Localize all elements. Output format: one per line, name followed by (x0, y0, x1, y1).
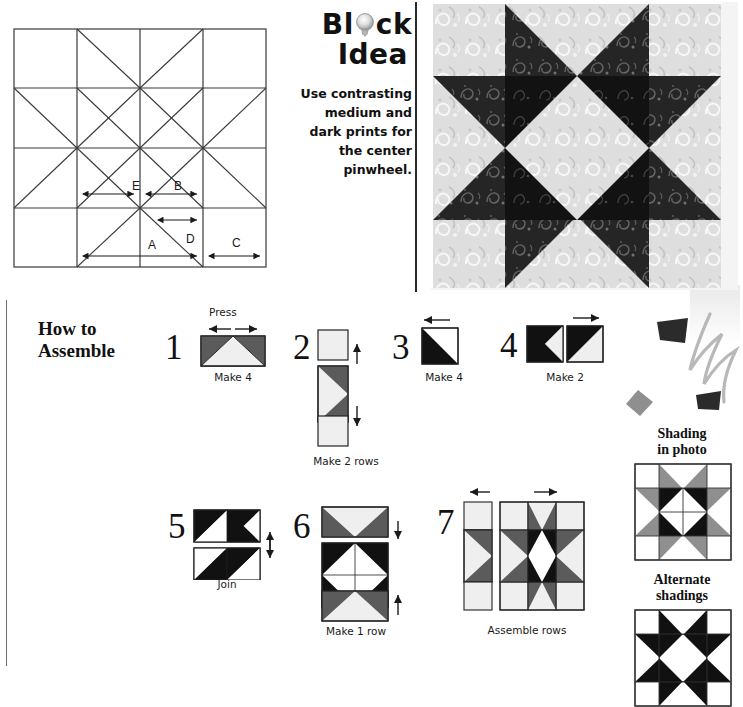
assemble-heading-line2: Assemble (38, 340, 115, 362)
step-1-press-label: Press (209, 306, 237, 318)
block-idea-title-suffix: ck (376, 10, 412, 40)
block-idea-panel: Bl ck (300, 10, 412, 179)
step-number-7: 7 (437, 505, 455, 540)
piece-label-C: C (232, 236, 241, 250)
shading-in-photo-diagram (634, 463, 732, 561)
pencil-scribble-mark (676, 306, 743, 416)
piece-label-E: E (132, 179, 140, 193)
step-number-4: 4 (500, 328, 518, 363)
step-number-5: 5 (168, 509, 186, 544)
step-1-caption: Make 4 (193, 371, 273, 383)
piece-label-A: A (148, 238, 156, 252)
block-idea-title-line2: Idea (300, 40, 412, 70)
step-3-unit (414, 312, 474, 368)
alternate-shadings-title-line2: shadings (620, 588, 743, 604)
step-7-unit (462, 484, 592, 618)
step-6-unit (320, 505, 412, 623)
step-number-3: 3 (392, 330, 410, 365)
left-margin-rule (6, 300, 7, 666)
lightbulb-icon (354, 11, 376, 39)
step-7-caption: Assemble rows (462, 624, 592, 636)
block-idea-body-text: Use contrasting medium and dark prints f… (300, 84, 412, 179)
step-1-unit (193, 320, 273, 368)
shading-in-photo-title-line1: Shading (620, 426, 743, 442)
block-photograph (431, 2, 738, 290)
piece-label-B: B (174, 179, 182, 193)
step-4-unit (523, 310, 613, 368)
step-5-unit (192, 508, 284, 580)
assemble-heading-line1: How to (38, 318, 115, 340)
step-2-caption: Make 2 rows (296, 455, 396, 467)
block-idea-title-prefix: Bl (322, 10, 354, 40)
alternate-shadings-diagram (634, 609, 732, 707)
alternate-shadings-title-line1: Alternate (620, 572, 743, 588)
shading-in-photo-title: Shading in photo (620, 426, 743, 458)
step-2-unit (316, 328, 378, 448)
center-divider-rule (415, 2, 417, 292)
fabric-scrap-gray-icon (624, 388, 656, 418)
step-6-caption: Make 1 row (306, 625, 406, 637)
shading-in-photo-title-line2: in photo (620, 442, 743, 458)
assemble-heading: How to Assemble (38, 318, 115, 362)
block-idea-title-line1: Bl ck (300, 10, 412, 40)
step-number-1: 1 (165, 330, 183, 365)
piece-label-D: D (186, 232, 195, 246)
step-number-6: 6 (293, 509, 311, 544)
alternate-shadings-title: Alternate shadings (620, 572, 743, 604)
step-3-caption: Make 4 (408, 371, 480, 383)
step-5-caption: Join (192, 578, 262, 590)
step-number-2: 2 (293, 330, 311, 365)
step-4-caption: Make 2 (523, 371, 607, 383)
